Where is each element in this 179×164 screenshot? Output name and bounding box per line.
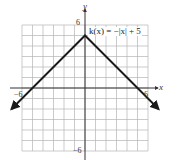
coordinate-plane bbox=[0, 0, 179, 164]
x-axis-label: x bbox=[159, 83, 163, 92]
x-tick-label-left: −6 bbox=[14, 91, 23, 99]
y-tick-label-top: 6 bbox=[76, 19, 80, 27]
y-axis-label: y bbox=[83, 2, 87, 11]
x-tick-label-right: 6 bbox=[144, 91, 148, 99]
y-tick-label-bottom: −6 bbox=[73, 147, 82, 155]
function-equation-label: k(x) = −|x| + 5 bbox=[88, 27, 142, 36]
